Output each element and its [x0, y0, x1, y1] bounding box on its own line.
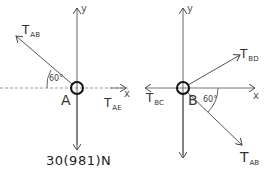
a-weight-label: 30(981)N: [46, 154, 111, 167]
a-y-label: y: [81, 4, 87, 14]
a-angle-label: 60°: [49, 75, 63, 83]
free-body-diagrams: [0, 0, 267, 173]
force-symbol: T: [146, 91, 153, 105]
b-tbc-label: TBC: [146, 92, 164, 107]
diagram-b: [145, 8, 255, 158]
b-tbd-label: TBD: [240, 48, 259, 63]
a-x-label: x: [124, 89, 130, 99]
force-subscript: AB: [30, 31, 40, 39]
force-symbol: T: [22, 23, 29, 37]
b-tbd-arrow: [188, 55, 240, 85]
force-subscript: AB: [250, 159, 260, 167]
b-point-label: B: [188, 93, 198, 107]
b-angle-label: 60°: [203, 96, 217, 104]
b-x-label: x: [253, 91, 259, 101]
b-y-label: y: [187, 4, 193, 14]
a-point-label: A: [61, 93, 71, 107]
a-tab-label: TAB: [22, 24, 40, 39]
force-subscript: AE: [112, 104, 121, 112]
a-tae-label: TAE: [104, 97, 122, 112]
a-tab-arrow: [16, 36, 72, 84]
b-tab-label: TAB: [240, 150, 259, 167]
force-symbol: T: [240, 149, 249, 165]
force-subscript: BD: [248, 55, 258, 63]
force-symbol: T: [104, 96, 111, 110]
force-subscript: BC: [154, 99, 164, 107]
diagram-a: [0, 8, 128, 150]
force-symbol: T: [240, 47, 247, 61]
